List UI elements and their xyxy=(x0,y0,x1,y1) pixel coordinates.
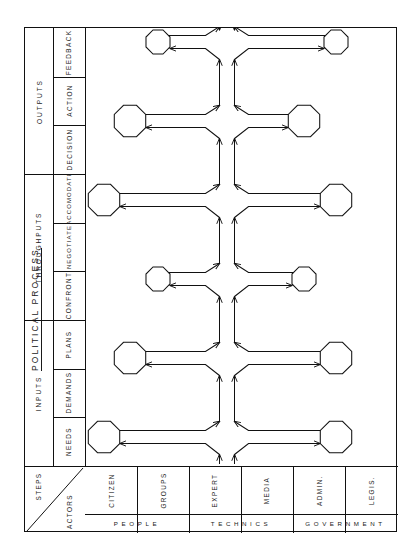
actor-cell-media: MEDIA xyxy=(241,466,293,514)
step-cell-demands: DEMANDS xyxy=(53,369,85,418)
flow-paths xyxy=(119,28,325,464)
phase-label-throughputs: THROUGHPUTS xyxy=(36,211,43,283)
phase-cell-inputs: INPUTS xyxy=(25,320,53,466)
step-cell-plans: PLANS xyxy=(53,320,85,369)
step-cell-accomodate: ACCOMODATE xyxy=(53,174,85,223)
step-label-negotiate: NEGOTIATE xyxy=(66,225,72,269)
step-label-accomodate: ACCOMODATE xyxy=(66,174,72,223)
actor-cell-legis: LEGIS. xyxy=(345,466,398,514)
actor-group-cell-government: GOVERNMENT xyxy=(293,514,398,533)
actor-label-admin: ADMIN. xyxy=(316,475,323,506)
corner-actors-label-cell: ACTORS xyxy=(55,490,83,532)
actor-label-citizen: CITIZEN xyxy=(108,473,115,508)
diagram-frame: OUTPUTS THROUGHPUTS INPUTS FEEDBACK ACTI… xyxy=(24,27,397,532)
political-process-figure: POLITICAL PROCESS OUTPUTS THROUGHPUTS IN… xyxy=(0,0,403,559)
phase-cell-throughputs: THROUGHPUTS xyxy=(25,174,53,320)
actor-group-label-technics: TECHNICS xyxy=(211,520,271,527)
phase-cell-outputs: OUTPUTS xyxy=(25,28,53,174)
step-cell-decision: DECISION xyxy=(53,125,85,174)
corner-steps-label: STEPS xyxy=(36,472,43,500)
step-cell-confront: CONFRONT xyxy=(53,271,85,320)
step-label-decision: DECISION xyxy=(66,129,73,171)
step-label-confront: CONFRONT xyxy=(66,272,73,319)
actor-label-groups: GROUPS xyxy=(159,472,166,508)
actor-group-cell-people: PEOPLE xyxy=(85,514,189,533)
corner-steps-label-cell: STEPS xyxy=(25,466,53,506)
actor-label-legis: LEGIS. xyxy=(368,475,375,504)
actor-label-expert: EXPERT xyxy=(211,473,218,507)
step-cell-feedback: FEEDBACK xyxy=(53,28,85,77)
step-label-plans: PLANS xyxy=(66,330,73,358)
actor-cell-admin: ADMIN. xyxy=(293,466,345,514)
step-label-feedback: FEEDBACK xyxy=(66,29,73,75)
actor-group-cell-technics: TECHNICS xyxy=(189,514,293,533)
step-cell-action: ACTION xyxy=(53,77,85,126)
corner-actors-label: ACTORS xyxy=(66,494,73,529)
actor-cell-expert: EXPERT xyxy=(189,466,241,514)
step-cell-negotiate: NEGOTIATE xyxy=(53,223,85,272)
phase-label-inputs: INPUTS xyxy=(36,375,43,411)
step-label-needs: NEEDS xyxy=(66,427,73,456)
phase-label-outputs: OUTPUTS xyxy=(36,79,43,124)
flow-diagram xyxy=(86,28,397,465)
step-label-action: ACTION xyxy=(66,85,73,118)
actor-cell-groups: GROUPS xyxy=(137,466,189,514)
step-label-demands: DEMANDS xyxy=(66,372,73,414)
actor-cell-citizen: CITIZEN xyxy=(85,466,137,514)
actor-group-label-government: GOVERNMENT xyxy=(305,520,385,527)
actor-label-media: MEDIA xyxy=(264,476,271,503)
step-cell-needs: NEEDS xyxy=(53,417,85,466)
actor-group-label-people: PEOPLE xyxy=(114,520,160,527)
